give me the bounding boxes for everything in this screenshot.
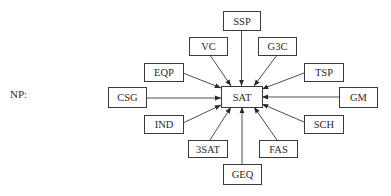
- node-eqp: EQP: [145, 64, 184, 82]
- node-g3c: G3C: [259, 38, 297, 56]
- node-label: IND: [155, 119, 174, 130]
- arrow-tsp-to-sat: [262, 73, 304, 89]
- node-csg: CSG: [109, 88, 147, 108]
- node-label: GM: [350, 92, 368, 103]
- node-fas: FAS: [260, 141, 298, 158]
- arrow-eqp-to-sat: [183, 73, 221, 88]
- node-sch: SCH: [305, 116, 344, 134]
- node-label: 3SAT: [196, 144, 221, 155]
- arrow-3sat-to-sat: [210, 107, 231, 140]
- node-geq: GEQ: [224, 165, 262, 185]
- node-center-sat: SAT: [222, 87, 263, 108]
- node-gm: GM: [340, 88, 378, 108]
- node-label: FAS: [269, 144, 288, 155]
- node-label: SAT: [233, 92, 252, 103]
- node-label: G3C: [268, 41, 288, 52]
- arrow-ind-to-sat: [183, 105, 221, 123]
- node-label: VC: [201, 41, 216, 52]
- arrow-g3c-to-sat: [254, 55, 277, 86]
- node-ssp: SSP: [224, 12, 261, 31]
- node-vc: VC: [190, 38, 228, 56]
- node-tsp: TSP: [305, 64, 344, 82]
- arrow-sch-to-sat: [262, 104, 304, 122]
- node-label: GEQ: [232, 169, 254, 180]
- reduction-diagram: SSPVCG3CEQPTSPCSGGMINDSCH3SATFASGEQSAT: [0, 0, 391, 196]
- node-ind: IND: [145, 116, 184, 134]
- node-label: TSP: [315, 67, 333, 78]
- arrow-fas-to-sat: [254, 107, 277, 140]
- node-label: SCH: [314, 119, 335, 130]
- node-label: EQP: [154, 67, 174, 78]
- node-label: SSP: [233, 16, 251, 27]
- arrow-vc-to-sat: [210, 55, 231, 86]
- node-label: CSG: [117, 92, 138, 103]
- node-3sat: 3SAT: [189, 141, 228, 158]
